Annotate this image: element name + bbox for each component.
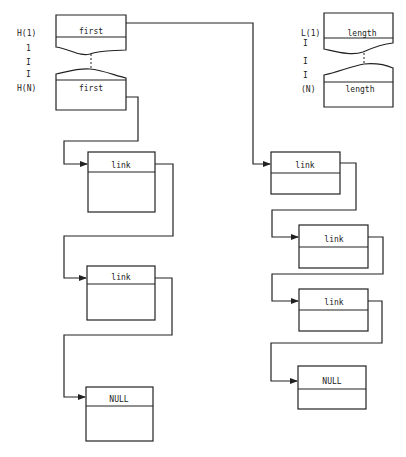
row-label-dots-1: I xyxy=(303,39,308,48)
row-label-dots-2: I xyxy=(303,57,308,66)
field-link: link xyxy=(324,298,343,307)
right-node-null: NULL xyxy=(298,366,366,409)
field-null: NULL xyxy=(322,377,341,386)
row-label-ln: (N) xyxy=(301,85,315,94)
field-link: link xyxy=(111,273,130,282)
field-first-top: first xyxy=(79,27,103,36)
field-null: NULL xyxy=(109,395,128,404)
right-node-2: link xyxy=(299,225,368,268)
row-label-dots-2: I xyxy=(26,58,31,67)
left-chain: link link NULL xyxy=(64,97,173,441)
field-length-bottom: length xyxy=(346,85,375,94)
right-node-3: link xyxy=(299,289,368,331)
row-label-l1: L(1) xyxy=(301,29,320,38)
field-link: link xyxy=(324,235,343,244)
field-length-top: length xyxy=(348,29,377,38)
field-link: link xyxy=(111,161,130,170)
arrow-h1-to-right-node1 xyxy=(126,23,270,164)
left-node-1: link xyxy=(88,152,155,212)
linked-list-diagram: H(1) 1 I I H(N) first first L(1) I I I (… xyxy=(0,0,406,457)
row-label-dots-3: I xyxy=(26,70,31,79)
left-node-null: NULL xyxy=(86,387,153,441)
left-header-array: H(1) 1 I I H(N) first first xyxy=(17,15,126,110)
right-header-array: L(1) I I I (N) length length xyxy=(301,13,393,107)
row-label-hn: H(N) xyxy=(17,84,36,93)
left-node-2: link xyxy=(87,266,155,320)
field-link: link xyxy=(295,161,314,170)
row-label-dots-1: 1 xyxy=(26,44,31,53)
field-first-bottom: first xyxy=(79,84,103,93)
right-node-1: link xyxy=(271,152,340,194)
row-label-dots-3: I xyxy=(303,71,308,80)
row-label-h1: H(1) xyxy=(17,29,36,38)
